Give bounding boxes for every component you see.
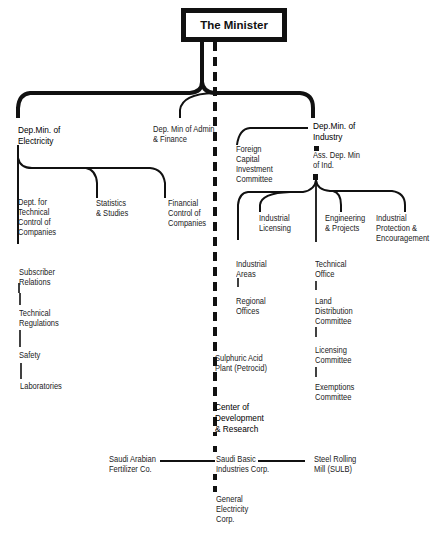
dep-min-industry: Dep.Min. of Industry <box>313 121 355 143</box>
steel-rolling-mill: Steel Rolling Mill (SULB) <box>314 455 356 475</box>
saudi-basic-industries: Saudi Basic Industries Corp. <box>216 455 269 475</box>
regional-offices: Regional Offices <box>236 297 266 317</box>
foreign-capital-committee: Foreign Capital Investment Committee <box>236 145 273 185</box>
dep-min-admin-finance: Dep. Min of Admin & Finance <box>153 125 215 145</box>
minister-box: The Minister <box>181 8 287 42</box>
industrial-areas: Industrial Areas <box>236 260 267 280</box>
center-development-research: Center of Development & Research <box>215 402 264 435</box>
industrial-protection: Industrial Protection & Encouragement <box>376 214 429 244</box>
industrial-licensing: Industrial Licensing <box>259 214 291 234</box>
exemptions-committee: Exemptions Committee <box>315 383 354 403</box>
engineering-projects: Engineering & Projects <box>325 214 365 234</box>
technical-regulations: Technical Regulations <box>19 309 59 329</box>
saudi-arabian-fertilizer: Saudi Arabian Fertilizer Co. <box>109 455 156 475</box>
financial-control: Financial Control of Companies <box>168 199 206 229</box>
dep-min-electricity: Dep.Min. of Electricity <box>18 125 60 147</box>
dept-technical-control: Dept. for Technical Control of Companies <box>18 198 56 238</box>
licensing-committee: Licensing Committee <box>315 346 351 366</box>
safety: Safety <box>19 351 40 361</box>
statistics-studies: Statistics & Studies <box>96 199 128 219</box>
land-distribution-committee: Land Distribution Committee <box>315 297 353 327</box>
sulphuric-acid-plant: Sulphuric Acid Plant (Petrocid) <box>215 354 267 374</box>
laboratories: Laboratories <box>20 382 62 392</box>
ass-dep-min-industry: Ass. Dep. Min of Ind. <box>313 151 360 171</box>
technical-office: Technical Office <box>315 260 346 280</box>
minister-title: The Minister <box>200 19 268 31</box>
subscriber-relations: Subscriber Relations <box>19 268 55 288</box>
general-electricity-corp: General Electricity Corp. <box>216 495 248 525</box>
